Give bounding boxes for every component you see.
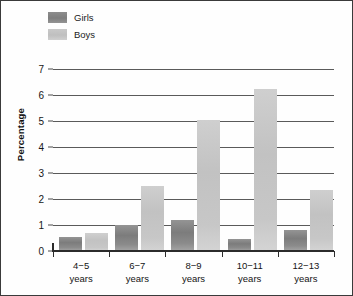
y-tick-label: 1 — [36, 220, 44, 231]
y-tick-label: 3 — [36, 168, 44, 179]
bar-boys — [141, 186, 164, 251]
legend-swatch-boys-icon — [48, 29, 67, 40]
chart-legend: Girls Boys — [48, 11, 95, 41]
x-axis-category-label: 12−13years — [273, 259, 339, 285]
bar-series-container — [53, 69, 334, 251]
bar-boys — [254, 89, 277, 252]
x-category-range: 12−13 — [273, 259, 339, 272]
bar-boys — [310, 190, 333, 251]
bar-girls — [284, 230, 307, 251]
y-tick-4: 4 — [36, 142, 53, 153]
bar-chart-figure: Girls Boys Percentage 76543210 4−5years6… — [0, 0, 353, 296]
bar-group — [169, 69, 225, 251]
x-tick-mark — [109, 251, 110, 257]
y-tick-label: 0 — [36, 246, 44, 257]
bar-group — [113, 69, 169, 251]
x-axis-labels: 4−5years6−7years8−9years10−11years12−13y… — [53, 251, 334, 295]
legend-label-girls: Girls — [74, 12, 94, 23]
bar-boys — [85, 233, 108, 251]
y-tick-label: 7 — [36, 64, 44, 75]
x-tick-mark — [334, 251, 335, 257]
plot-area: 76543210 — [53, 69, 334, 251]
y-tick-label: 4 — [36, 142, 44, 153]
x-category-unit: years — [273, 272, 339, 285]
bar-girls — [115, 225, 138, 251]
bar-boys — [197, 120, 220, 251]
x-tick-mark — [222, 251, 223, 257]
legend-item-boys: Boys — [48, 28, 95, 41]
y-axis-title: Percentage — [15, 90, 26, 180]
x-tick-mark — [278, 251, 279, 257]
y-tick-label: 2 — [36, 194, 44, 205]
x-tick-mark — [53, 251, 54, 257]
bar-girls — [171, 220, 194, 251]
y-tick-1: 1 — [36, 220, 53, 231]
y-tick-2: 2 — [36, 194, 53, 205]
bar-girls — [59, 237, 82, 251]
y-tick-5: 5 — [36, 116, 53, 127]
bar-group — [57, 69, 113, 251]
x-tick-mark — [165, 251, 166, 257]
y-tick-label: 5 — [36, 116, 44, 127]
bar-group — [282, 69, 338, 251]
y-tick-6: 6 — [36, 90, 53, 101]
legend-label-boys: Boys — [74, 29, 95, 40]
y-tick-3: 3 — [36, 168, 53, 179]
y-tick-0: 0 — [36, 246, 53, 257]
bar-group — [226, 69, 282, 251]
legend-swatch-girls-icon — [48, 12, 67, 23]
legend-item-girls: Girls — [48, 11, 95, 24]
y-tick-7: 7 — [36, 64, 53, 75]
y-tick-label: 6 — [36, 90, 44, 101]
